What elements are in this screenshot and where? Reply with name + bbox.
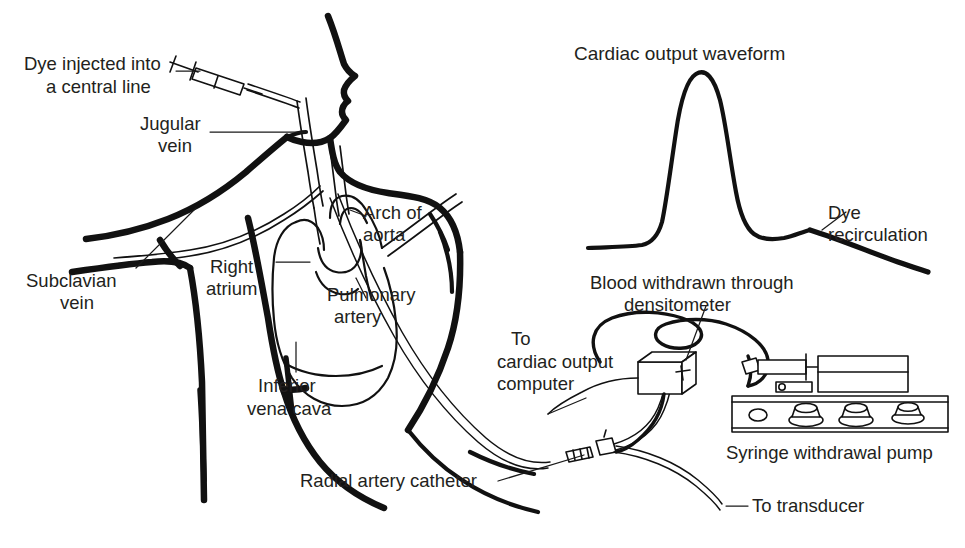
central-line-syringe-group: [170, 56, 300, 108]
axilla-crease: [430, 214, 448, 250]
right-atrium-outline: [296, 220, 324, 250]
stopcock-port: [604, 430, 606, 437]
label-dye-injected-line1: Dye injected into: [24, 53, 161, 74]
syringe-pump-group: [732, 354, 948, 432]
label-right-atrium-line1: Right: [210, 256, 253, 277]
label-right-atrium-line2: atrium: [206, 278, 257, 299]
waveform-title: Cardiac output waveform: [574, 43, 785, 64]
label-jugular-line2: vein: [158, 135, 192, 156]
label-to-computer-line1: To: [511, 328, 531, 349]
label-dye-injected-line2: a central line: [46, 76, 151, 97]
label-pulmonary-artery-line1: Pulmonary: [327, 284, 416, 305]
label-to-computer-line3: computer: [497, 373, 574, 394]
stopcock-hub: [596, 438, 616, 455]
pump-indicator-oval: [749, 409, 767, 421]
dye-dilution-diagram: Dye injected into a central line Jugular…: [0, 0, 965, 548]
label-subclavian-line1: Subclavian: [26, 270, 117, 291]
jugular-vein-vessel: [297, 101, 314, 208]
label-inferior-vena-cava-line1: Inferior: [258, 375, 316, 396]
densitometer-box-front: [638, 362, 682, 394]
label-subclavian-line2: vein: [60, 292, 94, 313]
syringe-needle: [244, 88, 262, 94]
head-profile-outline: [287, 16, 355, 143]
label-to-transducer: To transducer: [752, 495, 864, 516]
label-jugular-line1: Jugular: [140, 113, 201, 134]
pump-syringe-barrel: [758, 360, 806, 374]
syringe-barrel: [192, 68, 244, 95]
label-dye-recirculation-line1: Dye: [828, 202, 861, 223]
label-blood-withdrawn-line1: Blood withdrawn through: [590, 272, 794, 293]
label-syringe-pump: Syringe withdrawal pump: [726, 442, 933, 463]
label-dye-recirculation-line2: recirculation: [828, 224, 928, 245]
label-inferior-vena-cava-line2: vena cava: [247, 398, 332, 419]
arm-upper-outline: [248, 218, 284, 392]
waveform-curve: [588, 72, 810, 248]
jugular-vein-vessel-edge: [306, 98, 323, 206]
pump-driver-body: [818, 356, 908, 392]
label-to-computer-line2: cardiac output: [497, 351, 613, 372]
pump-clamp-pivot: [779, 384, 785, 390]
label-blood-withdrawn-line2: densitometer: [624, 294, 731, 315]
hand-outline: [470, 452, 534, 474]
label-arch-aorta-line1: Arch of: [363, 202, 422, 223]
label-arch-aorta-line2: aorta: [363, 224, 406, 245]
label-pulmonary-artery-line2: artery: [334, 306, 382, 327]
diagram-canvas: Dye injected into a central line Jugular…: [0, 0, 965, 548]
text-labels-group: Dye injected into a central line Jugular…: [24, 43, 933, 516]
label-radial-artery-catheter: Radial artery catheter: [300, 470, 477, 491]
